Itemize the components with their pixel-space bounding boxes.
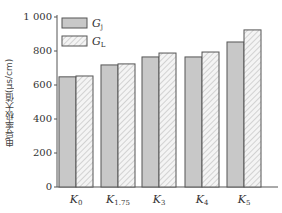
bar-Gj-K5 [227,42,244,187]
bar-GL-K1.75 [118,64,135,187]
x-tick-label: K3 [152,193,166,207]
bar-Gj-K0 [59,77,76,187]
y-tick-label: 0 [46,181,52,192]
bar-Gj-K4 [185,57,202,187]
x-tick-label: K4 [195,193,209,207]
bar-chart: 02004006008001 000K0K1.75K3K4K5 GjGL [0,0,282,213]
bar-Gj-K1.75 [101,65,118,187]
legend-label-Gj: Gj [92,17,103,31]
bars [59,30,261,187]
bar-GL-K3 [159,53,176,187]
bar-Gj-K3 [142,57,159,187]
y-tick-label: 1 000 [23,11,52,22]
y-tick-label: 800 [33,45,52,56]
x-tick-label: K5 [237,193,251,207]
bar-GL-K4 [202,52,219,187]
legend-label-GL: GL [92,35,106,49]
x-tick-label: K1.75 [105,193,130,207]
bar-GL-K5 [244,30,261,187]
legend-swatch-GL [62,36,87,46]
x-tick-label: K0 [69,193,83,207]
y-tick-label: 400 [33,113,52,124]
legend: GjGL [62,17,106,49]
y-tick-label: 200 [33,147,52,158]
y-tick-label: 600 [33,79,52,90]
bar-GL-K0 [76,76,93,187]
legend-swatch-Gj [62,18,87,28]
